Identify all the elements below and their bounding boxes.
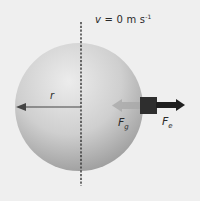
force-subscript: g xyxy=(124,123,128,131)
mass-block xyxy=(140,97,157,114)
radius-label: r xyxy=(50,91,54,101)
velocity-label: v = 0 m s-1 xyxy=(95,14,152,25)
velocity-exponent: -1 xyxy=(145,13,151,20)
force-subscript: e xyxy=(168,122,172,130)
external-force-label: Fe xyxy=(162,116,173,130)
velocity-text: = 0 m s xyxy=(105,14,146,25)
gravity-force-label: Fg xyxy=(118,117,129,131)
external-force-arrow xyxy=(156,99,185,111)
diagram-canvas xyxy=(0,0,200,201)
sphere-force-diagram: v = 0 m s-1 r Fg Fe xyxy=(0,0,200,201)
